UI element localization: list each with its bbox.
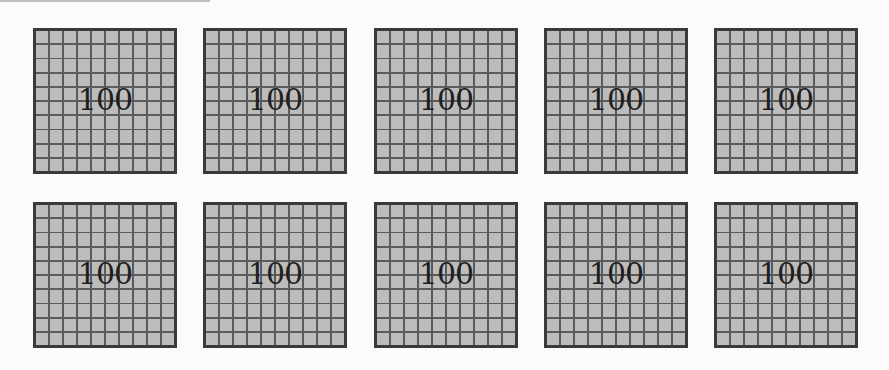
square-label: 100 xyxy=(377,259,515,289)
hundred-square-4: 100 xyxy=(544,28,688,174)
square-label: 100 xyxy=(717,85,855,115)
hundred-square-8: 100 xyxy=(374,202,518,348)
hundred-square-5: 100 xyxy=(714,28,858,174)
top-rule xyxy=(0,0,210,2)
hundred-square-2: 100 xyxy=(203,28,347,174)
hundred-square-1: 100 xyxy=(33,28,177,174)
hundred-square-3: 100 xyxy=(374,28,518,174)
square-label: 100 xyxy=(547,85,685,115)
square-label: 100 xyxy=(547,259,685,289)
square-label: 100 xyxy=(377,85,515,115)
square-label: 100 xyxy=(717,259,855,289)
square-label: 100 xyxy=(206,85,344,115)
hundred-square-7: 100 xyxy=(203,202,347,348)
hundred-square-6: 100 xyxy=(33,202,177,348)
hundred-square-9: 100 xyxy=(544,202,688,348)
square-label: 100 xyxy=(206,259,344,289)
square-label: 100 xyxy=(36,85,174,115)
hundred-square-10: 100 xyxy=(714,202,858,348)
square-label: 100 xyxy=(36,259,174,289)
